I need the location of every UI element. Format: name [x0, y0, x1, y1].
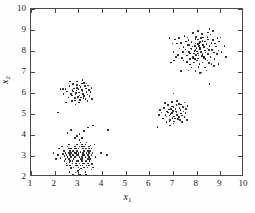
y-axis-tick-right: [238, 156, 242, 157]
data-point: [178, 37, 180, 39]
y-axis-tick-label: 2: [6, 171, 26, 181]
data-point: [188, 51, 190, 53]
data-point: [87, 100, 89, 102]
data-point: [191, 67, 193, 69]
data-point: [188, 44, 190, 46]
data-point: [168, 109, 170, 111]
data-point: [193, 53, 195, 55]
data-point: [81, 137, 83, 139]
data-point: [81, 144, 83, 146]
data-point: [73, 88, 75, 90]
data-point: [198, 66, 200, 68]
data-point: [83, 130, 85, 132]
x-axis-tick-label: 2: [44, 178, 64, 188]
data-point: [92, 152, 94, 154]
data-point: [194, 50, 196, 52]
data-point: [173, 51, 175, 53]
data-point: [183, 46, 185, 48]
data-point: [180, 109, 182, 111]
data-point: [166, 121, 168, 123]
y-axis-tick-label: 7: [6, 66, 26, 76]
data-point: [73, 158, 75, 160]
data-point: [215, 46, 217, 48]
data-point: [85, 171, 87, 173]
data-point: [77, 96, 79, 98]
data-point: [182, 51, 184, 53]
data-point: [62, 153, 64, 155]
data-point: [184, 102, 186, 104]
data-point: [176, 43, 178, 45]
data-point: [85, 98, 87, 100]
data-point: [225, 56, 227, 58]
data-point: [69, 162, 71, 164]
data-point: [194, 58, 196, 60]
data-point: [180, 70, 182, 72]
data-point: [196, 47, 198, 49]
data-point: [189, 53, 191, 55]
x-axis-tick-label: 5: [115, 178, 135, 188]
data-point: [202, 40, 204, 42]
y-axis-tick: [31, 135, 35, 136]
data-point: [90, 91, 92, 93]
scatter-plot-figure: 12345678910 2345678910 x1 x2: [0, 0, 255, 213]
data-point: [82, 154, 84, 156]
y-axis-tick-right: [238, 93, 242, 94]
data-point: [198, 55, 200, 57]
data-point: [175, 108, 177, 110]
data-point: [65, 152, 67, 154]
data-point: [192, 46, 194, 48]
data-point: [218, 63, 220, 65]
data-point: [90, 145, 92, 147]
data-point: [181, 121, 183, 123]
data-point: [192, 32, 194, 34]
x-axis-tick-top: [197, 9, 198, 13]
data-point: [182, 106, 184, 108]
y-axis-tick-label: 8: [6, 45, 26, 55]
data-point: [82, 79, 84, 81]
data-point: [202, 44, 204, 46]
data-point: [209, 45, 211, 47]
data-point: [187, 37, 189, 39]
data-point: [206, 43, 208, 45]
data-point: [195, 54, 197, 56]
y-axis-tick-label: 9: [6, 24, 26, 34]
data-point: [218, 50, 220, 52]
data-point: [92, 125, 94, 127]
data-point: [79, 146, 81, 148]
y-axis-tick: [31, 51, 35, 52]
data-point: [212, 30, 214, 32]
data-point: [72, 91, 74, 93]
data-point: [211, 42, 213, 44]
data-point: [188, 39, 190, 41]
data-point: [208, 49, 210, 51]
data-point: [214, 58, 216, 60]
data-point: [75, 94, 77, 96]
data-point: [220, 37, 222, 39]
data-point: [69, 81, 71, 83]
y-axis-tick-label: 5: [6, 108, 26, 118]
data-point: [87, 127, 89, 129]
data-point: [69, 165, 71, 167]
data-point: [173, 123, 175, 125]
data-point: [186, 55, 188, 57]
x-axis-tick-top: [55, 9, 56, 13]
data-point: [166, 116, 168, 118]
data-point: [85, 156, 87, 158]
data-point: [207, 36, 209, 38]
data-point: [203, 46, 205, 48]
data-point: [71, 100, 73, 102]
data-point: [164, 102, 166, 104]
data-point: [75, 92, 77, 94]
data-point: [92, 167, 94, 169]
x-axis-tick-top: [149, 9, 150, 13]
data-point: [79, 99, 81, 101]
data-point: [189, 64, 191, 66]
y-axis-tick: [31, 156, 35, 157]
data-point: [80, 168, 82, 170]
data-point: [74, 152, 76, 154]
data-point: [85, 174, 87, 176]
data-point: [176, 100, 178, 102]
data-point: [71, 95, 73, 97]
data-point: [172, 117, 174, 119]
x-axis-tick: [31, 171, 32, 175]
